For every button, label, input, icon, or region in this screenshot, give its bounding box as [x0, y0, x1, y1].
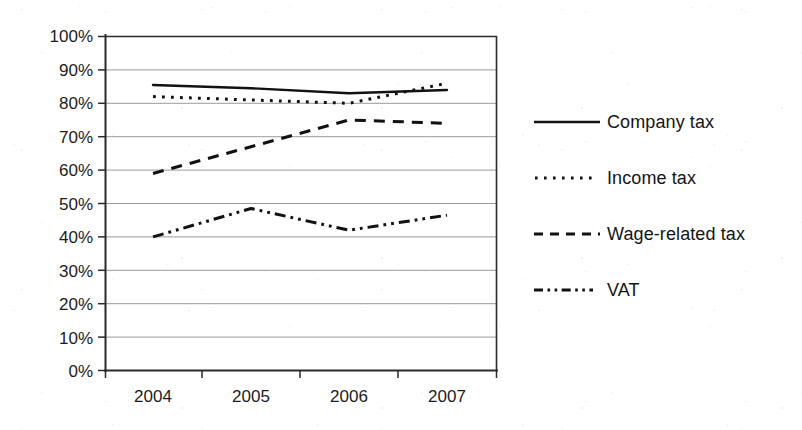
- legend-label: Wage-related tax: [607, 224, 745, 245]
- series-line-company-tax: [153, 85, 447, 93]
- y-tick-label: 100%: [50, 27, 93, 46]
- legend-item-company-tax: Company tax: [533, 94, 795, 150]
- legend-item-wage-related-tax: Wage-related tax: [533, 206, 795, 262]
- y-tick-label: 60%: [59, 161, 93, 180]
- y-axis-labels: 100% 90% 80% 70% 60% 50% 40% 30% 20% 10%…: [50, 27, 93, 381]
- legend-item-vat: VAT: [533, 262, 795, 318]
- y-tick-label: 30%: [59, 262, 93, 281]
- chart-legend: Company tax Income tax Wage-related tax …: [533, 94, 795, 318]
- data-series-layer: [153, 83, 447, 237]
- x-tick-label: 2005: [232, 387, 270, 406]
- legend-label: VAT: [607, 280, 640, 301]
- tax-rate-line-chart: 100% 90% 80% 70% 60% 50% 40% 30% 20% 10%…: [0, 0, 802, 430]
- y-tick-label: 10%: [59, 329, 93, 348]
- y-tick-label: 20%: [59, 295, 93, 314]
- y-tick-label: 40%: [59, 228, 93, 247]
- legend-label: Company tax: [607, 112, 714, 133]
- y-tick-label: 0%: [68, 362, 93, 381]
- x-axis-labels: 2004 2005 2006 2007: [134, 387, 466, 406]
- y-tick-label: 50%: [59, 195, 93, 214]
- y-tick-label: 80%: [59, 94, 93, 113]
- series-line-vat: [153, 209, 447, 237]
- dotted-line-icon: [533, 171, 601, 185]
- legend-item-income-tax: Income tax: [533, 150, 795, 206]
- x-tick-label: 2006: [330, 387, 368, 406]
- dash-dot-line-icon: [533, 283, 601, 297]
- y-tick-label: 90%: [59, 61, 93, 80]
- x-tick-label: 2007: [428, 387, 466, 406]
- dashed-line-icon: [533, 227, 601, 241]
- gridlines: [105, 37, 497, 338]
- legend-label: Income tax: [607, 168, 696, 189]
- y-tick-label: 70%: [59, 128, 93, 147]
- x-tick-label: 2004: [134, 387, 172, 406]
- solid-line-icon: [533, 115, 601, 129]
- series-line-wage-related-tax: [153, 120, 447, 173]
